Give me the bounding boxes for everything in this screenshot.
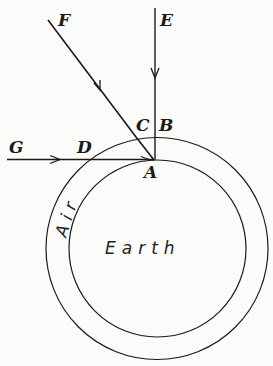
diagram-canvas: F E C B G D A Earth Air <box>0 0 273 366</box>
label-a: A <box>142 162 157 182</box>
label-c: C <box>136 115 150 135</box>
label-earth: Earth <box>105 238 181 258</box>
ray-f-to-a <box>48 20 154 160</box>
refraction-diagram: F E C B G D A Earth Air <box>0 0 273 366</box>
label-b: B <box>158 115 173 135</box>
label-g: G <box>9 137 24 157</box>
label-f: F <box>57 10 72 30</box>
label-e: E <box>159 10 174 30</box>
label-d: D <box>76 137 92 157</box>
label-air: Air <box>50 194 82 240</box>
